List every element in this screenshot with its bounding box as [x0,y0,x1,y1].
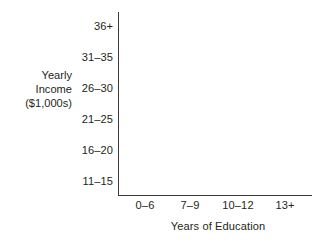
y-axis-title-line-1: Yearly [0,68,72,82]
plot-area [120,12,312,194]
y-axis-tick-label: 16–20 [33,145,113,156]
y-axis-tick-label: 21–25 [33,114,113,125]
x-axis-line [118,195,312,196]
y-axis-tick-label: 31–35 [33,52,113,63]
x-axis-title: Years of Education [118,220,318,233]
x-axis-tick-label: 13+ [255,200,315,211]
y-axis-tick-label: 26–30 [33,83,113,94]
y-axis-tick-label: 11–15 [33,176,113,187]
chart-figure: Yearly Income ($1,000s) 36+ 31–35 26–30 … [0,0,331,251]
y-axis-title-line-3: ($1,000s) [0,96,72,110]
y-axis-tick-label: 36+ [33,21,113,32]
